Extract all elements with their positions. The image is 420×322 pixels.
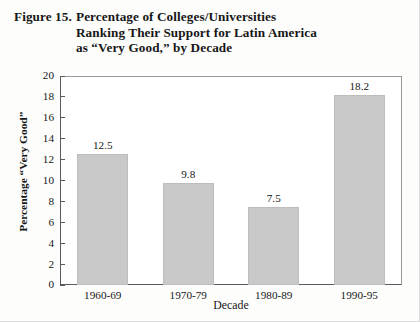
y-tick-mark: [60, 201, 65, 202]
y-tick-label: 16: [20, 112, 54, 123]
y-tick-label: 0: [20, 279, 54, 290]
y-tick-label: 20: [20, 70, 54, 81]
y-tick-mark: [60, 76, 65, 77]
bar: [77, 154, 128, 285]
bar: [163, 183, 214, 285]
y-tick-mark: [60, 180, 65, 181]
bar-value-label: 12.5: [60, 140, 146, 151]
y-tick-mark: [60, 138, 65, 139]
y-tick-mark: [60, 96, 65, 97]
bar-value-label: 18.2: [317, 81, 403, 92]
y-tick-label: 8: [20, 196, 54, 207]
y-tick-label: 4: [20, 238, 54, 249]
y-tick-mark: [60, 243, 65, 244]
figure-page: Figure 15.Percentage of Colleges/Univers…: [0, 0, 420, 322]
y-tick-mark: [60, 222, 65, 223]
bar: [334, 95, 385, 285]
y-tick-mark: [60, 159, 65, 160]
y-tick-label: 10: [20, 175, 54, 186]
y-tick-label: 12: [20, 154, 54, 165]
bar: [248, 207, 299, 285]
y-tick-mark: [60, 264, 65, 265]
y-tick-label: 6: [20, 217, 54, 228]
y-tick-label: 14: [20, 133, 54, 144]
bar-value-label: 9.8: [146, 169, 232, 180]
y-tick-mark: [60, 285, 65, 286]
y-tick-label: 2: [20, 259, 54, 270]
bar-value-label: 7.5: [231, 193, 317, 204]
y-tick-label: 18: [20, 91, 54, 102]
x-axis-label: Decade: [60, 300, 402, 312]
bar-chart: Percentage “Very Good” 20181614121086420…: [0, 0, 420, 322]
y-tick-mark: [60, 117, 65, 118]
